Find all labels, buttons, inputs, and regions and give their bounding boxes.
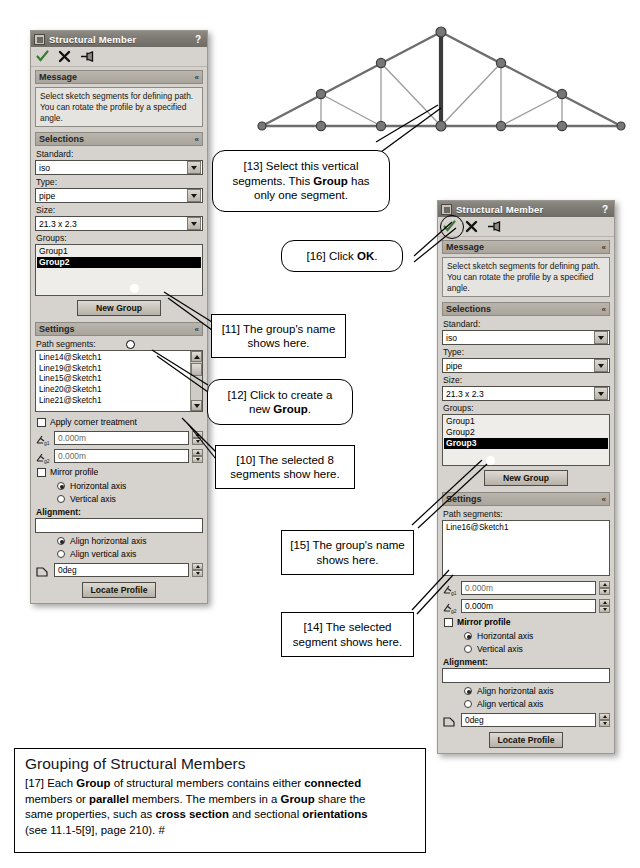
callout-12-bold: Group	[273, 403, 308, 415]
callout-16-pre: Click	[329, 250, 357, 262]
callout-13-bold: Group	[313, 175, 348, 187]
callout-16-post: .	[374, 250, 377, 262]
callout-13-line2a: segments. This	[232, 175, 313, 187]
callout-15: [15] The group's name shows here.	[281, 530, 414, 575]
callout-16: [16] Click OK.	[281, 240, 403, 272]
callout-11: [11] The group's name shows here.	[211, 314, 346, 358]
callout-10-number: [10]	[236, 454, 255, 466]
callout-13-number: [13]	[243, 160, 262, 172]
callout-15-line2: shows here.	[316, 554, 378, 566]
callout-14-line2: segment shows here.	[293, 636, 402, 648]
callout-12-number: [12]	[228, 389, 247, 401]
callout-10-line2: segments show here.	[230, 468, 339, 480]
callout-14-line1: The selected	[326, 621, 392, 633]
callout-12: [12] Click to create a new Group.	[207, 379, 353, 425]
callout-16-number: [16]	[307, 250, 326, 262]
callout-10-line1: The selected 8	[258, 454, 333, 466]
callout-10: [10] The selected 8 segments show here.	[215, 445, 355, 489]
callout-13-line3: only one segment.	[254, 189, 348, 201]
callout-11-line1: The group's name	[243, 323, 335, 335]
callout-leader-lines	[0, 0, 640, 868]
callout-12-line1: Click to create a	[250, 389, 332, 401]
ok-button-highlight-circle	[440, 215, 464, 239]
callout-15-number: [15]	[290, 539, 309, 551]
callout-13: [13] Select this vertical segments. This…	[212, 150, 390, 212]
callout-14: [14] The selected segment shows here.	[281, 612, 414, 657]
callout-15-line1: The group's name	[312, 539, 404, 551]
callout-12-line2pre: new	[249, 403, 273, 415]
callout-11-line2: shows here.	[247, 337, 309, 349]
callout-13-line1: Select this vertical	[266, 160, 359, 172]
callout-12-line2post: .	[308, 403, 311, 415]
callout-11-number: [11]	[222, 323, 240, 335]
callout-14-number: [14]	[303, 621, 322, 633]
callout-13-line2b: has	[348, 175, 370, 187]
callout-16-bold: OK	[357, 250, 374, 262]
